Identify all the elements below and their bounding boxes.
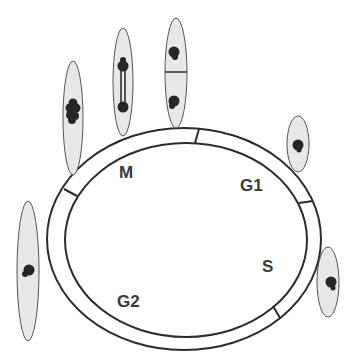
- divider-s-g2: [273, 306, 280, 318]
- cell-s: [317, 247, 339, 317]
- phase-label-g2: G2: [117, 293, 140, 310]
- cell-anaphase: [113, 28, 133, 136]
- phase-label-m: M: [119, 164, 133, 181]
- cell-cytokinesis: [165, 18, 187, 128]
- cell-cycle-diagram: M G1 S G2: [0, 0, 355, 360]
- divider-g2-m: [64, 189, 77, 196]
- phase-label-s: S: [262, 258, 273, 275]
- phase-label-g1: G1: [240, 177, 263, 194]
- divider-g1-s: [299, 201, 313, 203]
- inner-ring: [65, 143, 307, 337]
- cell-g1: [287, 116, 309, 172]
- cell-g2-left: [17, 201, 39, 341]
- cell-metaphase: [63, 61, 83, 175]
- divider-m-g1: [195, 129, 199, 143]
- cycle-ring: [0, 0, 355, 360]
